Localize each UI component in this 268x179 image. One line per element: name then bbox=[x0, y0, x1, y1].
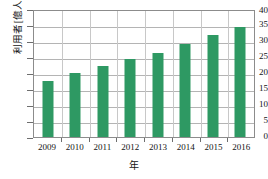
x-tick-label-2010: 2010 bbox=[61, 141, 89, 154]
y-axis-title: 利用者[億人] bbox=[10, 0, 24, 80]
x-tick-label-2016: 2016 bbox=[227, 141, 255, 154]
bar-chart: 利用者[億人] 40 35 30 25 20 15 10 5 0 bbox=[0, 0, 268, 179]
x-tick-label-2013: 2013 bbox=[144, 141, 172, 154]
bar-2012 bbox=[125, 59, 136, 137]
x-tick-label-2011: 2011 bbox=[89, 141, 117, 154]
bar-2014 bbox=[180, 44, 191, 137]
bar-cell bbox=[117, 11, 145, 137]
bar-cell bbox=[199, 11, 227, 137]
bar-cell bbox=[144, 11, 172, 137]
x-axis-title: 年 bbox=[0, 157, 268, 172]
bar-cell bbox=[34, 11, 62, 137]
bar-2009 bbox=[42, 81, 53, 137]
bar-2013 bbox=[152, 53, 163, 137]
bar-2015 bbox=[207, 35, 218, 137]
x-tick-label-2012: 2012 bbox=[116, 141, 144, 154]
bar-2010 bbox=[70, 73, 81, 137]
bar-2016 bbox=[235, 27, 246, 137]
plot-area bbox=[33, 10, 255, 138]
x-tick-label-2014: 2014 bbox=[172, 141, 200, 154]
bar-cell bbox=[172, 11, 200, 137]
x-tick-label-2009: 2009 bbox=[33, 141, 61, 154]
bar-cell bbox=[89, 11, 117, 137]
x-axis-tick-labels: 2009 2010 2011 2012 2013 2014 2015 2016 bbox=[33, 141, 255, 154]
x-tick-label-2015: 2015 bbox=[200, 141, 228, 154]
bar-cell bbox=[62, 11, 90, 137]
y-tick-mark bbox=[27, 138, 33, 139]
bar-cell bbox=[227, 11, 255, 137]
bar-series bbox=[34, 11, 254, 137]
bar-2011 bbox=[97, 66, 108, 137]
